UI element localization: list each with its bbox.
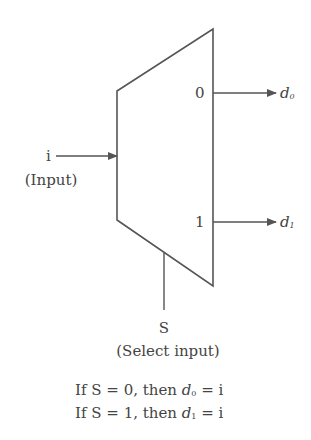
input-label: (Input) bbox=[25, 171, 78, 189]
input-symbol: i bbox=[46, 147, 51, 165]
select-symbol: S bbox=[159, 319, 169, 337]
output-label-d0: d0 bbox=[280, 84, 295, 102]
demux-diagram: 0 1 d0 d1 i (Input) S (Select input) If … bbox=[0, 0, 311, 440]
port-label-1: 1 bbox=[195, 213, 205, 231]
rule-s1: If S = 1, then d1 = i bbox=[75, 404, 224, 422]
demux-block bbox=[117, 29, 213, 286]
rule-s0: If S = 0, then d0 = i bbox=[75, 381, 224, 399]
port-label-0: 0 bbox=[195, 84, 205, 102]
output-label-d1: d1 bbox=[280, 213, 295, 231]
select-label: (Select input) bbox=[116, 342, 219, 360]
